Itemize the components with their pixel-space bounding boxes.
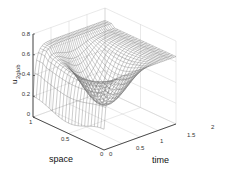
z-axis-ticks: 0.8 0.6 0.4 0.2 0	[22, 31, 31, 117]
time-tick-label: 0.5	[136, 145, 145, 151]
time-tick-label: 1.5	[187, 132, 196, 138]
space-tick-label: 0	[100, 151, 104, 157]
space-axis-label: space	[49, 154, 73, 164]
time-tick-label: 0	[109, 151, 113, 157]
z-axis-label-sub: 2glob	[15, 64, 21, 79]
z-tick-label: 0.6	[22, 51, 31, 57]
surface-plot: 0.8 0.6 0.4 0.2 0 1 0.5 0 0 0.5 1 1.5 2 …	[0, 0, 226, 179]
time-tick-label: 2	[211, 124, 215, 130]
z-tick-label: 0	[27, 111, 31, 117]
z-axis-label: u 2glob	[10, 64, 21, 84]
time-axis-label: time	[152, 155, 169, 165]
space-tick-label: 0.5	[61, 136, 70, 142]
z-tick-label: 0.2	[22, 91, 31, 97]
time-tick-label: 1	[160, 138, 164, 144]
z-tick-label: 0.4	[22, 71, 31, 77]
z-axis-label-main: u	[10, 80, 19, 84]
surface-mesh	[33, 20, 176, 129]
z-tick-label: 0.8	[22, 31, 31, 37]
space-tick-label: 1	[29, 119, 33, 125]
